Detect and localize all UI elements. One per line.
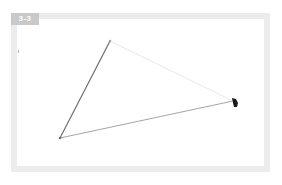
cursor-icon xyxy=(232,98,238,107)
triangle-edge-left xyxy=(60,41,110,138)
drawing-canvas[interactable] xyxy=(0,0,282,185)
vertex-bottom-left[interactable] xyxy=(59,137,62,140)
vertex-top[interactable] xyxy=(109,40,111,42)
triangle-edge-top-right xyxy=(110,41,233,101)
triangle-edge-bottom xyxy=(60,101,233,138)
